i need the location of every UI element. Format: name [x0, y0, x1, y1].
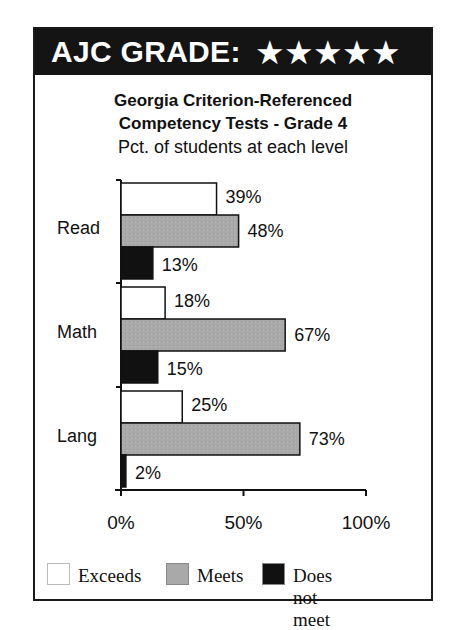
legend-swatch-meets — [166, 563, 189, 585]
chart-title-line2: Competency Tests - Grade 4 — [35, 114, 431, 134]
grade-card: AJC GRADE: ★★★★★ Georgia Criterion-Refer… — [33, 27, 433, 601]
chart-subtitle: Pct. of students at each level — [35, 137, 431, 158]
legend-swatch-does-not-meet — [262, 563, 285, 585]
legend-label-does-not-meet: Does not meet — [293, 565, 332, 630]
chart-title-line1: Georgia Criterion-Referenced — [35, 91, 431, 111]
legend-swatch-exceeds — [47, 563, 70, 585]
star-rating-icon: ★★★★★ — [255, 36, 400, 69]
legend-label-meets: Meets — [197, 565, 243, 587]
grade-title: AJC GRADE: — [51, 37, 241, 67]
legend-label-exceeds: Exceeds — [78, 565, 141, 587]
grade-header: AJC GRADE: ★★★★★ — [35, 29, 431, 75]
